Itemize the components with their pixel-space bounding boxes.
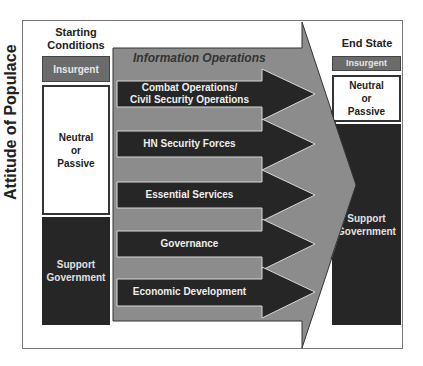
loe-essential-services: Essential Services	[117, 182, 262, 208]
loe-label: Essential Services	[146, 189, 234, 201]
starting-neutral-line1: Neutral	[59, 131, 93, 144]
loe-label-line1: Combat Operations/	[142, 82, 238, 94]
starting-header-line2: Conditions	[42, 39, 110, 52]
starting-header-line1: Starting	[42, 26, 110, 39]
loe-label: Economic Development	[133, 286, 246, 298]
end-insurgent-box: Insurgent	[332, 56, 401, 71]
starting-neutral-line3: Passive	[57, 157, 94, 170]
loe-label: HN Security Forces	[143, 138, 235, 150]
end-neutral-line1: Neutral	[349, 79, 383, 92]
starting-insurgent-box: Insurgent	[42, 56, 110, 82]
end-insurgent-label: Insurgent	[346, 57, 387, 70]
end-support-line1: Support	[347, 212, 385, 225]
loe-combat-operations: Combat Operations/ Civil Security Operat…	[117, 81, 262, 107]
starting-support-box: Support Government	[42, 217, 110, 325]
loe-hn-security-forces: HN Security Forces	[117, 131, 262, 157]
starting-conditions-header: Starting Conditions	[42, 26, 110, 52]
information-operations-label: Information Operations	[133, 51, 266, 65]
loe-economic-development: Economic Development	[117, 279, 262, 305]
loe-governance: Governance	[117, 231, 262, 257]
starting-support-line1: Support	[57, 258, 95, 271]
starting-support-line2: Government	[47, 271, 106, 284]
starting-insurgent-label: Insurgent	[53, 63, 99, 76]
end-state-header: End State	[332, 37, 402, 50]
end-support-line2: Government	[337, 225, 396, 238]
end-neutral-line2: or	[362, 92, 372, 105]
end-neutral-line3: Passive	[348, 105, 385, 118]
starting-neutral-box: Neutral or Passive	[42, 85, 110, 215]
loe-label-line2: Civil Security Operations	[130, 94, 249, 106]
starting-neutral-line2: or	[71, 144, 81, 157]
end-support-box: Support Government	[332, 124, 401, 325]
end-neutral-box: Neutral or Passive	[332, 75, 401, 122]
loe-label: Governance	[161, 238, 219, 250]
